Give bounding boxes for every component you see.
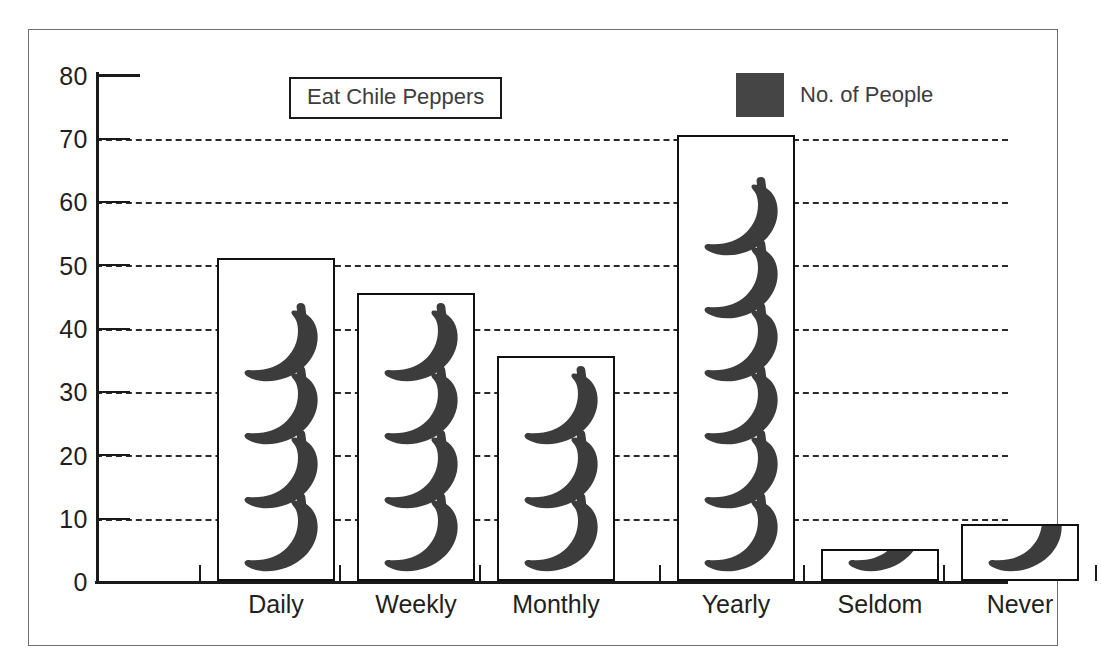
x-tick-yearly [659,565,661,581]
chile-pepper-icon [515,360,609,448]
y-tick-label-50: 50 [28,254,88,279]
bar-weekly [357,293,475,581]
chile-pepper-icon [695,171,789,259]
chile-pepper-icon [979,524,1073,575]
chart-title: Eat Chile Peppers [289,77,502,119]
x-tick-weekly [339,565,341,581]
chile-pepper-icon [235,297,329,385]
x-axis-label-monthly: Monthly [466,591,646,619]
bar-monthly [497,356,615,581]
x-tick-end [1095,565,1097,581]
x-tick-seldom [803,565,805,581]
bar-yearly [677,135,795,581]
bar-seldom [821,549,939,581]
chile-pepper-icon [375,297,469,385]
y-tick-label-80: 80 [28,64,88,89]
x-tick-never [943,565,945,581]
bar-daily [217,258,335,581]
legend-label-no-of-people: No. of People [800,84,933,106]
y-tick-label-40: 40 [28,317,88,342]
chile-pepper-icon [839,549,933,575]
legend-swatch-no-of-people [736,73,784,117]
bar-never [961,524,1079,581]
y-tick-label-30: 30 [28,380,88,405]
y-tick-label-10: 10 [28,507,88,532]
bars-group [96,75,1008,581]
x-tick-daily [199,565,201,581]
chart-legend: No. of People [736,73,933,117]
x-axis-line [95,581,1008,584]
y-tick-label-0: 0 [28,570,88,595]
y-tick-label-70: 70 [28,127,88,152]
x-axis-label-never: Never [930,591,1101,619]
y-tick-label-20: 20 [28,444,88,469]
y-axis-labels: 80 70 60 50 40 30 20 10 0 [20,0,88,670]
y-tick-label-60: 60 [28,190,88,215]
x-tick-monthly [479,565,481,581]
